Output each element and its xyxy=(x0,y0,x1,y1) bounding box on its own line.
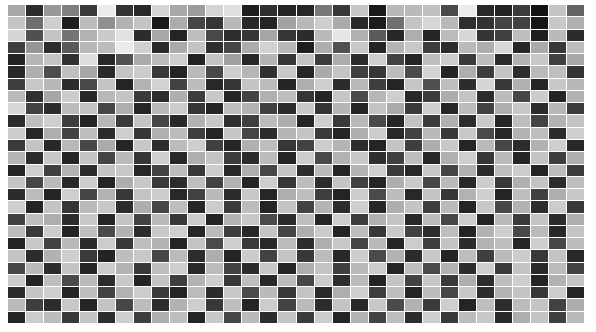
heatmap-cell xyxy=(260,5,277,16)
heatmap-cell xyxy=(387,214,404,225)
heatmap-cell xyxy=(549,238,566,249)
heatmap-cell xyxy=(278,287,295,298)
heatmap-cell xyxy=(116,115,133,126)
heatmap-cell xyxy=(8,54,25,65)
heatmap-cell xyxy=(80,103,97,114)
heatmap-cell xyxy=(8,140,25,151)
heatmap-cell xyxy=(134,177,151,188)
heatmap-cell xyxy=(116,189,133,200)
heatmap-cell xyxy=(531,250,548,261)
heatmap-cell xyxy=(387,17,404,28)
heatmap-cell xyxy=(549,275,566,286)
heatmap-cell xyxy=(477,115,494,126)
heatmap-cell xyxy=(80,226,97,237)
heatmap-cell xyxy=(477,66,494,77)
heatmap-cell xyxy=(513,115,530,126)
heatmap-cell xyxy=(80,312,97,323)
heatmap-cell xyxy=(80,30,97,41)
heatmap-cell xyxy=(513,30,530,41)
heatmap-cell xyxy=(495,189,512,200)
heatmap-cell xyxy=(297,79,314,90)
heatmap-cell xyxy=(369,152,386,163)
heatmap-cell xyxy=(531,165,548,176)
heatmap-cell xyxy=(441,226,458,237)
heatmap-cell xyxy=(260,42,277,53)
heatmap-cell xyxy=(549,30,566,41)
heatmap-cell xyxy=(531,103,548,114)
heatmap-cell xyxy=(260,189,277,200)
heatmap-cell xyxy=(333,91,350,102)
heatmap-cell xyxy=(206,128,223,139)
heatmap-cell xyxy=(351,115,368,126)
heatmap-cell xyxy=(206,238,223,249)
heatmap-cell xyxy=(44,287,61,298)
heatmap-cell xyxy=(423,299,440,310)
heatmap-cell xyxy=(477,189,494,200)
heatmap-cell xyxy=(170,128,187,139)
heatmap-cell xyxy=(567,5,584,16)
heatmap-cell xyxy=(152,201,169,212)
heatmap-cell xyxy=(513,189,530,200)
heatmap-cell xyxy=(567,250,584,261)
heatmap-cell xyxy=(351,312,368,323)
heatmap-cell xyxy=(26,177,43,188)
heatmap-cell xyxy=(333,30,350,41)
heatmap-cell xyxy=(315,263,332,274)
heatmap-cell xyxy=(152,79,169,90)
heatmap-cell xyxy=(80,189,97,200)
heatmap-cell xyxy=(170,66,187,77)
heatmap-cell xyxy=(315,140,332,151)
heatmap-cell xyxy=(423,226,440,237)
heatmap-cell xyxy=(116,30,133,41)
heatmap-cell xyxy=(477,275,494,286)
heatmap-cell xyxy=(495,115,512,126)
heatmap-cell xyxy=(152,115,169,126)
heatmap-cell xyxy=(315,30,332,41)
heatmap-cell xyxy=(98,165,115,176)
heatmap-cell xyxy=(134,152,151,163)
heatmap-cell xyxy=(134,299,151,310)
heatmap-cell xyxy=(278,165,295,176)
heatmap-cell xyxy=(315,91,332,102)
heatmap-cell xyxy=(369,128,386,139)
heatmap-cell xyxy=(260,201,277,212)
heatmap-cell xyxy=(278,140,295,151)
heatmap-cell xyxy=(423,214,440,225)
heatmap-cell xyxy=(477,263,494,274)
heatmap-cell xyxy=(315,312,332,323)
heatmap-cell xyxy=(495,128,512,139)
heatmap-cell xyxy=(278,103,295,114)
heatmap-cell xyxy=(423,66,440,77)
heatmap-cell xyxy=(8,152,25,163)
heatmap-cell xyxy=(405,238,422,249)
heatmap-cell xyxy=(351,152,368,163)
heatmap-cell xyxy=(116,201,133,212)
heatmap-cell xyxy=(8,17,25,28)
heatmap-cell xyxy=(387,115,404,126)
heatmap-cell xyxy=(441,238,458,249)
heatmap-cell xyxy=(188,91,205,102)
heatmap-cell xyxy=(242,226,259,237)
heatmap-cell xyxy=(513,66,530,77)
heatmap-cell xyxy=(206,66,223,77)
heatmap-cell xyxy=(333,189,350,200)
heatmap-cell xyxy=(26,250,43,261)
heatmap-cell xyxy=(26,214,43,225)
heatmap-cell xyxy=(423,201,440,212)
heatmap-cell xyxy=(297,42,314,53)
heatmap-cell xyxy=(260,115,277,126)
heatmap-cell xyxy=(206,103,223,114)
heatmap-cell xyxy=(224,42,241,53)
heatmap-cell xyxy=(152,54,169,65)
heatmap-cell xyxy=(80,54,97,65)
heatmap-cell xyxy=(513,263,530,274)
heatmap-cell xyxy=(224,238,241,249)
heatmap-cell xyxy=(369,66,386,77)
heatmap-cell xyxy=(459,152,476,163)
heatmap-cell xyxy=(98,250,115,261)
heatmap-cell xyxy=(26,91,43,102)
heatmap-cell xyxy=(531,128,548,139)
heatmap-cell xyxy=(224,275,241,286)
heatmap-cell xyxy=(315,287,332,298)
heatmap-cell xyxy=(369,263,386,274)
